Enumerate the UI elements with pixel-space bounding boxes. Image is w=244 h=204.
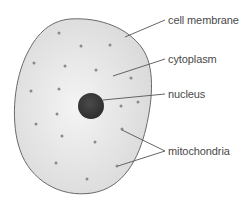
mitochondrion bbox=[56, 113, 59, 116]
mitochondrion bbox=[94, 141, 97, 144]
mitochondrion bbox=[137, 101, 140, 104]
label-cytoplasm: cytoplasm bbox=[168, 53, 217, 65]
mitochondrion bbox=[58, 88, 61, 91]
mitochondrion bbox=[33, 62, 36, 65]
mitochondrion bbox=[80, 45, 83, 48]
mitochondrion bbox=[55, 162, 58, 165]
label-nucleus: nucleus bbox=[168, 88, 205, 100]
mitochondrion bbox=[120, 105, 123, 108]
nucleus bbox=[78, 93, 104, 119]
mitochondrion bbox=[95, 69, 98, 72]
mitochondrion bbox=[30, 90, 33, 93]
label-cell-membrane: cell membrane bbox=[168, 14, 239, 26]
mitochondrion bbox=[61, 135, 64, 138]
cell-diagram bbox=[0, 0, 244, 204]
mitochondrion bbox=[109, 44, 112, 47]
mitochondrion bbox=[130, 77, 133, 80]
label-mitochondria: mitochondria bbox=[168, 145, 230, 157]
mitochondrion bbox=[86, 178, 89, 181]
mitochondrion bbox=[35, 123, 38, 126]
mitochondrion bbox=[64, 65, 67, 68]
mitochondrion bbox=[58, 32, 61, 35]
leader-line bbox=[125, 20, 165, 37]
